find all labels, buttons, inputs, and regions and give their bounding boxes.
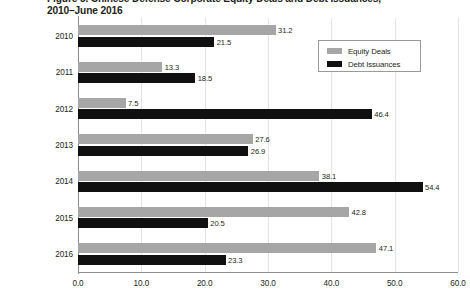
y-tick-label: 2011 — [56, 68, 73, 77]
bar-debt-issuances[interactable] — [78, 37, 214, 47]
x-tick-label: 40.0 — [324, 279, 340, 288]
x-tick-label: 20.0 — [197, 279, 213, 288]
bar-group: 27.626.9 — [78, 127, 458, 163]
bar-value-label: 21.5 — [214, 37, 231, 46]
bar-row: 31.2 — [78, 25, 458, 35]
bar-group: 47.123.3 — [78, 236, 458, 272]
bar-value-label: 38.1 — [319, 171, 336, 180]
bar-row: 23.3 — [78, 255, 458, 265]
bar-chart: 2010201120122013201420152016 31.221.513.… — [0, 0, 470, 295]
chart-legend: Equity Deals Debt Issuances — [318, 40, 421, 72]
bar-row: 27.6 — [78, 134, 458, 144]
bar-value-label: 26.9 — [248, 146, 265, 155]
bar-value-label: 42.8 — [349, 207, 366, 216]
x-tick-label: 0.0 — [72, 279, 83, 288]
bar-value-label: 46.4 — [372, 110, 389, 119]
bar-row: 54.4 — [78, 182, 458, 192]
bar-value-label: 23.3 — [226, 255, 243, 264]
bar-value-label: 13.3 — [162, 62, 179, 71]
bar-equity-deals[interactable] — [78, 25, 276, 35]
bar-value-label: 27.6 — [253, 135, 270, 144]
legend-swatch-icon-equity — [327, 48, 342, 54]
y-tick-label: 2016 — [55, 249, 73, 258]
bar-row: 18.5 — [78, 73, 458, 83]
bar-value-label: 54.4 — [423, 183, 440, 192]
bar-group: 38.154.4 — [78, 163, 458, 199]
bar-value-label: 7.5 — [126, 98, 139, 107]
bar-equity-deals[interactable] — [78, 134, 253, 144]
legend-label-equity: Equity Deals — [348, 47, 391, 56]
bar-equity-deals[interactable] — [78, 171, 319, 181]
legend-swatch-icon-debt — [327, 61, 342, 67]
bar-row: 26.9 — [78, 146, 458, 156]
y-tick-label: 2010 — [55, 32, 73, 41]
bar-value-label: 18.5 — [195, 74, 212, 83]
bar-debt-issuances[interactable] — [78, 182, 423, 192]
bar-equity-deals[interactable] — [78, 62, 162, 72]
gridline — [458, 18, 459, 272]
bar-group: 42.820.5 — [78, 199, 458, 235]
y-tick-label: 2013 — [55, 141, 73, 150]
bar-equity-deals[interactable] — [78, 98, 126, 108]
y-tick-label: 2015 — [55, 213, 73, 222]
x-tick-label: 50.0 — [387, 279, 403, 288]
legend-label-debt: Debt Issuances — [348, 60, 400, 69]
bar-value-label: 47.1 — [376, 244, 393, 253]
bar-row: 42.8 — [78, 207, 458, 217]
legend-item-debt-issuances[interactable]: Debt Issuances — [327, 58, 420, 70]
bar-row: 20.5 — [78, 218, 458, 228]
bar-value-label: 20.5 — [208, 219, 225, 228]
bar-row: 47.1 — [78, 243, 458, 253]
x-tick-label: 60.0 — [450, 279, 466, 288]
bar-debt-issuances[interactable] — [78, 146, 248, 156]
bar-debt-issuances[interactable] — [78, 255, 226, 265]
y-axis-tick-labels: 2010201120122013201420152016 — [0, 0, 73, 295]
x-axis-line — [78, 272, 458, 273]
bar-group: 7.546.4 — [78, 91, 458, 127]
bar-row: 38.1 — [78, 171, 458, 181]
bar-equity-deals[interactable] — [78, 243, 376, 253]
bar-debt-issuances[interactable] — [78, 218, 208, 228]
bar-debt-issuances[interactable] — [78, 73, 195, 83]
y-tick-label: 2014 — [55, 177, 73, 186]
legend-item-equity-deals[interactable]: Equity Deals — [327, 45, 420, 57]
x-tick-label: 10.0 — [134, 279, 150, 288]
bar-equity-deals[interactable] — [78, 207, 349, 217]
bar-value-label: 31.2 — [276, 26, 293, 35]
bar-row: 7.5 — [78, 98, 458, 108]
bar-debt-issuances[interactable] — [78, 109, 372, 119]
bar-row: 46.4 — [78, 109, 458, 119]
y-tick-label: 2012 — [55, 104, 73, 113]
x-tick-label: 30.0 — [260, 279, 276, 288]
